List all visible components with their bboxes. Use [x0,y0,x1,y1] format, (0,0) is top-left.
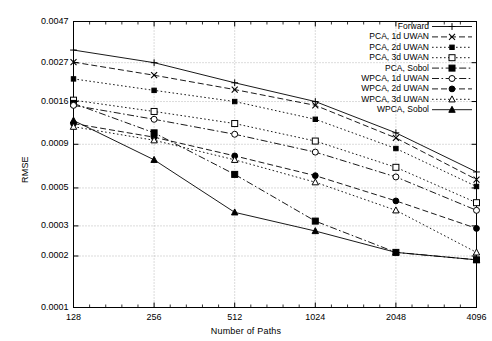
marker-triangle-open [449,96,455,102]
legend-label: Forward [398,21,429,31]
chart-figure: 0.00470.00270.00160.00090.00050.00030.00… [0,0,492,341]
series-line [74,127,477,253]
marker-square-small [394,146,398,150]
marker-square-small [474,184,478,188]
marker-triangle-open [473,249,479,255]
marker-circle-open [232,131,238,137]
marker-circle-open [449,76,455,82]
marker-square-open [151,108,157,114]
legend-label: WPCA, 1d UWAN [361,73,429,83]
legend-label: PCA, Sobol [385,63,429,73]
x-axis-tick-label: 128 [54,312,94,322]
x-axis-tick-label: 2048 [376,312,416,322]
x-axis-title: Number of Paths [0,326,492,336]
y-axis-tick-label: 0.0027 [41,57,69,67]
marker-circle-filled [312,173,318,179]
marker-circle-filled [474,226,480,232]
series-wpca-1d-uwan [71,102,480,213]
y-axis-tick-label: 0.0009 [41,138,69,148]
series-wpca-sobol [70,117,479,262]
marker-circle-open [474,207,480,213]
legend-label: WPCA, Sobol [377,104,429,114]
series-line [74,103,477,259]
marker-square-open [474,200,480,206]
marker-square-filled [232,171,238,177]
y-axis-tick-label: 0.0001 [41,302,69,312]
legend-label: PCA, 3d UWAN [369,52,429,62]
legend-label: WPCA, 2d UWAN [361,83,429,93]
y-axis-tick-label: 0.0047 [41,16,69,26]
marker-square-open [449,55,455,61]
series-line [74,120,477,259]
marker-circle-open [151,116,157,122]
legend-label: PCA, 1d UWAN [369,31,429,41]
x-axis-tick-label: 512 [215,312,255,322]
marker-square-open [393,164,399,170]
marker-triangle-filled [232,209,238,215]
legend-label: PCA, 2d UWAN [369,42,429,52]
marker-circle-open [312,149,318,155]
marker-triangle-open [393,207,399,213]
marker-square-open [312,138,318,144]
marker-circle-filled [393,198,399,204]
y-axis-tick-label: 0.0005 [41,182,69,192]
marker-circle-filled [449,86,455,92]
marker-square-small [313,117,317,121]
y-axis-tick-label: 0.0016 [41,96,69,106]
marker-square-filled [449,65,455,71]
marker-square-small [71,77,75,81]
marker-triangle-filled [151,156,157,162]
marker-square-filled [312,218,318,224]
x-axis-tick-label: 1024 [295,312,335,322]
x-axis-tick-label: 256 [134,312,174,322]
marker-square-small [233,99,237,103]
marker-square-small [152,88,156,92]
legend-label: WPCA, 3d UWAN [361,94,429,104]
marker-triangle-filled [70,117,76,123]
x-axis-tick-label: 4096 [457,312,492,322]
y-axis-tick-label: 0.0002 [41,250,69,260]
marker-circle-open [71,102,77,108]
marker-triangle-open [312,179,318,185]
series-pca-sobol [71,100,480,262]
marker-square-open [232,121,238,127]
marker-circle-open [393,174,399,180]
series-wpca-2d-uwan [71,121,480,232]
legend [432,23,472,112]
y-axis-tick-label: 0.0003 [41,220,69,230]
y-axis-title: RMSE [20,156,30,183]
marker-square-small [450,45,454,49]
